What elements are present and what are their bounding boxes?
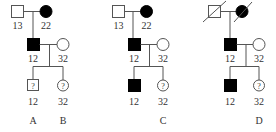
genotype-label: 13 — [13, 20, 23, 31]
mother-deceased-affected-female — [236, 6, 248, 18]
unknown-mark: ? — [161, 82, 165, 91]
genotype-label: 22 — [142, 20, 152, 31]
pedigree-figure: 13 22 12 32 ? ? 12 32 A B 13 22 12 32 ? … — [0, 0, 276, 132]
son-affected-male — [28, 39, 40, 51]
pedigree-panel-c — [113, 6, 170, 92]
father-unaffected-male — [113, 6, 125, 18]
genotype-label: 32 — [58, 53, 68, 64]
unknown-mark: ? — [257, 82, 261, 91]
mother-affected-female — [40, 6, 52, 18]
spouse-unaffected-female — [157, 39, 169, 51]
spouse-unaffected-female — [253, 39, 265, 51]
genotype-label: 32 — [158, 53, 168, 64]
pedigree-panel-d — [203, 1, 265, 92]
genotype-label: 12 — [225, 96, 235, 107]
genotype-label: 12 — [225, 53, 235, 64]
genotype-label: 32 — [58, 96, 68, 107]
spouse-unaffected-female — [57, 39, 69, 51]
mother-affected-female — [141, 6, 153, 18]
child-affected-male — [129, 80, 141, 92]
genotype-label: 32 — [254, 96, 264, 107]
panel-label-a: A — [29, 115, 37, 126]
genotype-label: 32 — [158, 96, 168, 107]
son-affected-male — [129, 39, 141, 51]
panel-label-c: C — [160, 115, 167, 126]
unknown-mark: ? — [61, 82, 65, 91]
genotype-label: 22 — [41, 20, 51, 31]
genotype-label: 12 — [129, 53, 139, 64]
child-affected-male — [225, 80, 237, 92]
panel-label-d: D — [255, 115, 262, 126]
pedigree-panel-ab — [12, 6, 70, 92]
father-unaffected-male — [12, 6, 24, 18]
son-affected-male — [225, 39, 237, 51]
genotype-label: 12 — [129, 96, 139, 107]
genotype-label: 32 — [254, 53, 264, 64]
genotype-label: 12 — [28, 53, 38, 64]
genotype-label: 13 — [114, 20, 124, 31]
panel-label-b: B — [60, 115, 67, 126]
unknown-mark: ? — [31, 82, 35, 91]
genotype-label: 12 — [28, 96, 38, 107]
